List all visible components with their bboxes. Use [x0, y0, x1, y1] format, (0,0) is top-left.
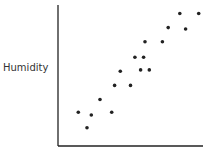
data-point: [166, 26, 170, 30]
data-point: [129, 84, 133, 88]
data-point: [133, 55, 137, 59]
data-point: [90, 113, 94, 117]
data-point: [119, 70, 123, 74]
data-point: [139, 68, 143, 72]
data-point: [77, 110, 81, 114]
data-point: [148, 68, 152, 72]
data-points: [77, 12, 201, 130]
data-point: [178, 12, 182, 16]
data-point: [197, 12, 201, 16]
data-point: [143, 40, 147, 44]
data-point: [98, 98, 102, 102]
data-point: [161, 40, 165, 44]
data-point: [113, 84, 117, 88]
scatter-chart: [0, 0, 214, 158]
y-axis-label: Humidity: [3, 62, 48, 73]
data-point: [85, 126, 89, 130]
data-point: [184, 27, 188, 31]
data-point: [110, 110, 114, 114]
data-point: [142, 55, 146, 59]
